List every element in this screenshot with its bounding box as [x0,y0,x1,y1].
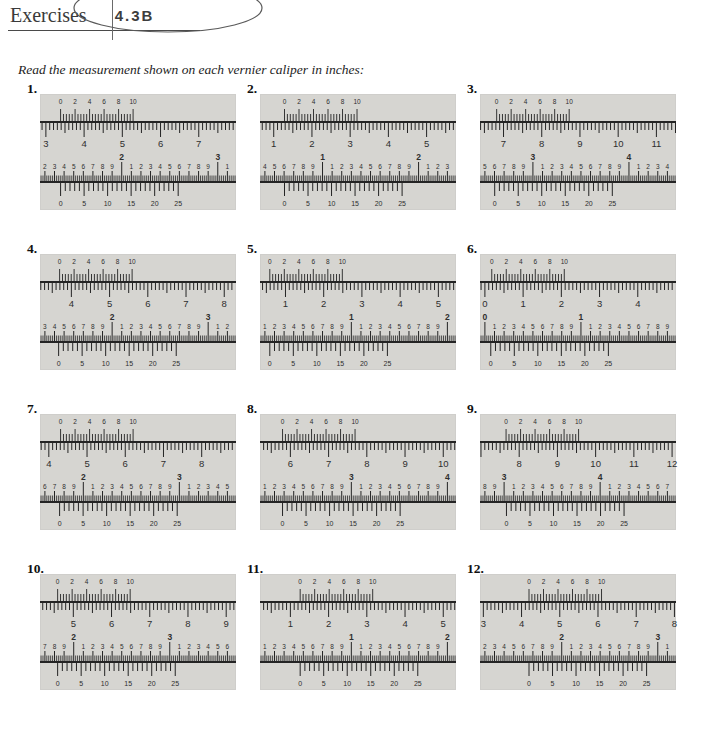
caliper-bottom-scale: 123456789312345678940510152025 [260,472,456,528]
svg-text:2: 2 [502,323,506,330]
svg-text:4: 4 [598,472,603,482]
svg-text:4: 4 [533,418,537,425]
svg-text:10: 10 [104,200,112,207]
svg-text:5: 5 [226,483,230,490]
caliper-top-scale: 456780246810 [40,415,236,470]
svg-text:3: 3 [512,323,516,330]
svg-text:5: 5 [120,643,124,650]
section-code: 4.3B [101,5,201,31]
svg-text:20: 20 [585,200,593,207]
svg-text:2: 2 [70,578,74,585]
svg-text:6: 6 [311,643,315,650]
svg-text:0: 0 [493,200,497,207]
svg-text:2: 2 [618,483,622,490]
svg-text:5: 5 [398,323,402,330]
svg-text:9: 9 [72,483,76,490]
svg-text:1: 1 [570,643,574,650]
svg-text:6: 6 [533,258,537,265]
svg-text:10: 10 [328,200,336,207]
svg-text:6: 6 [548,418,552,425]
svg-text:4: 4 [519,258,523,265]
svg-text:3: 3 [43,138,48,149]
svg-text:10: 10 [561,258,569,265]
svg-text:20: 20 [360,360,368,367]
svg-text:6: 6 [493,163,497,170]
svg-text:1: 1 [359,483,363,490]
svg-text:10: 10 [129,98,137,105]
svg-text:20: 20 [151,200,159,207]
svg-text:7: 7 [139,643,143,650]
svg-text:3: 3 [481,618,486,629]
svg-text:4: 4 [88,98,92,105]
svg-text:3: 3 [282,483,286,490]
svg-text:1: 1 [579,312,584,322]
svg-text:5: 5 [168,163,172,170]
svg-text:6: 6 [123,458,128,469]
svg-text:9: 9 [340,483,344,490]
svg-text:2: 2 [436,163,440,170]
svg-text:0: 0 [527,680,531,687]
page-title: Exercises [8,4,101,31]
problem-number: 4. [27,241,37,257]
problem-number: 3. [467,81,477,97]
svg-text:2: 2 [130,323,134,330]
svg-text:6: 6 [158,138,163,149]
svg-text:8: 8 [517,458,522,469]
svg-text:4: 4 [297,258,301,265]
svg-text:0: 0 [59,418,63,425]
svg-text:2: 2 [483,643,487,650]
svg-text:5: 5 [62,323,66,330]
svg-text:6: 6 [407,323,411,330]
svg-text:5: 5 [304,520,308,527]
svg-text:5: 5 [80,360,84,367]
svg-text:8: 8 [356,578,360,585]
svg-text:1: 1 [178,643,182,650]
svg-text:2: 2 [197,483,201,490]
svg-text:2: 2 [579,643,583,650]
svg-text:5: 5 [72,163,76,170]
svg-text:7: 7 [666,483,670,490]
svg-text:25: 25 [620,520,628,527]
svg-text:7: 7 [147,618,152,629]
caliper-bottom-scale: 893123456789412345670510152025 [480,472,676,528]
svg-text:4: 4 [388,483,392,490]
svg-text:5: 5 [84,458,89,469]
svg-text:20: 20 [581,360,589,367]
svg-text:9: 9 [589,483,593,490]
svg-text:6: 6 [637,323,641,330]
svg-text:4: 4 [618,323,622,330]
svg-text:20: 20 [619,680,627,687]
svg-text:4: 4 [69,298,74,309]
svg-text:8: 8 [199,458,204,469]
svg-text:1: 1 [359,323,363,330]
svg-text:9: 9 [206,163,210,170]
svg-text:0: 0 [281,418,285,425]
svg-text:2: 2 [73,98,77,105]
svg-text:2: 2 [273,323,277,330]
svg-text:6: 6 [342,578,346,585]
svg-text:4: 4 [445,472,450,482]
svg-text:7: 7 [43,643,47,650]
svg-text:4: 4 [110,643,114,650]
svg-text:7: 7 [598,163,602,170]
svg-text:8: 8 [483,483,487,490]
svg-text:5: 5 [302,643,306,650]
svg-text:0: 0 [482,298,487,309]
caliper-panel: 8.67891002468101234567893123456789405101… [260,414,456,530]
svg-text:6: 6 [311,483,315,490]
svg-text:1: 1 [512,483,516,490]
svg-text:6: 6 [226,643,230,650]
svg-text:0: 0 [490,258,494,265]
svg-text:12: 12 [667,458,678,469]
svg-text:2: 2 [519,418,523,425]
svg-text:1: 1 [349,632,354,642]
exercise-grid: 1.34567024681023456789212345678931051015… [40,94,701,690]
svg-text:8: 8 [637,643,641,650]
svg-text:5: 5 [107,298,112,309]
svg-text:4: 4 [310,418,314,425]
svg-text:2: 2 [73,418,77,425]
svg-text:5: 5 [216,643,220,650]
svg-text:7: 7 [627,643,631,650]
svg-text:10: 10 [127,578,135,585]
svg-text:9: 9 [618,163,622,170]
